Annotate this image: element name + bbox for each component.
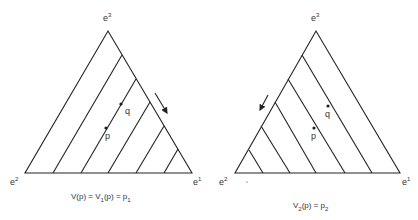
left-vertex-e2: e2 — [10, 176, 18, 187]
right-vertex-e3: e3 — [311, 12, 319, 23]
right-label-q: q — [325, 109, 330, 119]
right-point-q — [326, 104, 329, 107]
right-simplex — [235, 31, 400, 173]
left-point-p — [104, 126, 107, 129]
left-arrow-icon — [155, 93, 167, 113]
right-speck — [246, 181, 247, 182]
left-vertex-e1: e1 — [193, 176, 201, 187]
left-triangle-outline — [25, 31, 192, 173]
right-vertex-e2: e2 — [219, 176, 227, 187]
right-points — [246, 104, 329, 182]
left-label-p: p — [105, 131, 110, 141]
left-simplex — [25, 31, 192, 173]
left-point-q — [119, 102, 122, 105]
diagram-canvas — [0, 0, 418, 220]
right-point-p — [312, 126, 315, 129]
right-label-p: p — [311, 131, 316, 141]
right-vertex-e1: e1 — [402, 176, 410, 187]
left-vertex-e3: e3 — [103, 12, 111, 23]
right-caption: V2(p) = p2 — [293, 201, 328, 212]
left-label-q: q — [125, 106, 130, 116]
right-triangle-outline — [235, 31, 400, 173]
right-arrow-icon — [260, 95, 268, 110]
left-caption: V(p) = V1(p) = p1 — [71, 192, 131, 203]
